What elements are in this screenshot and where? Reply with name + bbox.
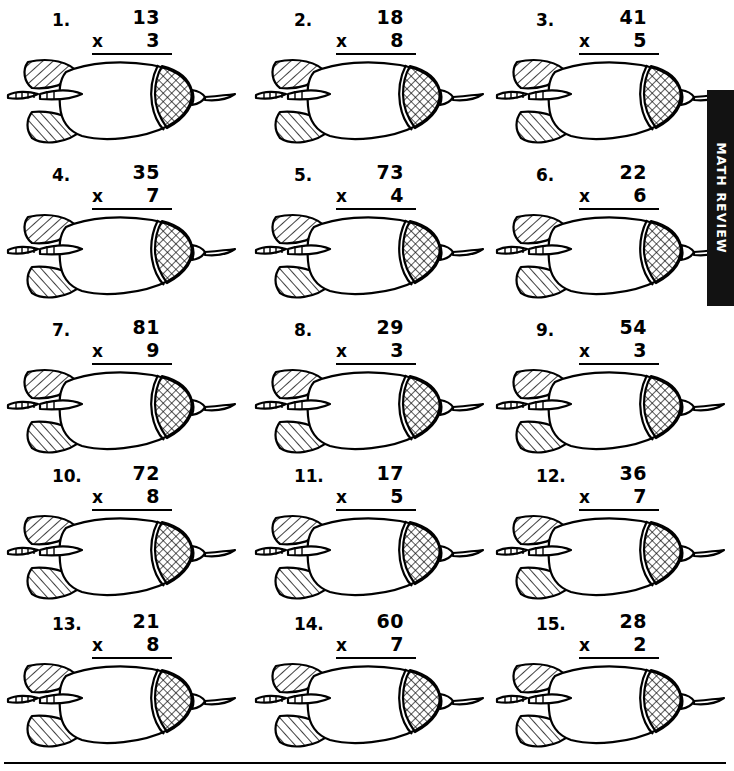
multiplicand: 28 — [579, 610, 659, 632]
problem-number: 1. — [52, 12, 70, 29]
dart-illustration — [2, 50, 238, 150]
problem-number: 4. — [52, 167, 70, 184]
multiplication-operator: x — [336, 185, 347, 207]
problem-number: 15. — [536, 616, 566, 633]
problem-number: 2. — [294, 12, 312, 29]
problem-number: 7. — [52, 322, 70, 339]
multiplicand: 41 — [579, 6, 659, 28]
multiplication-operator: x — [336, 486, 347, 508]
worksheet-page: 1.13x3 — [0, 0, 734, 771]
multiplier: 2 — [633, 633, 647, 655]
problem-cell: 3.41x5 — [489, 0, 734, 155]
dart-illustration — [2, 654, 238, 754]
multiplicand: 81 — [92, 316, 172, 338]
problem-cell: 12.36x7 — [489, 456, 734, 604]
problem-operands: 73x4 — [336, 161, 416, 210]
problem-number: 10. — [52, 468, 82, 485]
problem-cell: 2.18x8 — [244, 0, 489, 155]
side-tab-label: MATH REVIEW — [713, 142, 728, 253]
problem-cell: 7.81x9 — [0, 310, 244, 456]
multiplicand: 18 — [336, 6, 416, 28]
problem-operands: 28x2 — [579, 610, 659, 659]
multiplicand: 54 — [579, 316, 659, 338]
problem-number: 13. — [52, 616, 82, 633]
problem-cell: 4.35x7 — [0, 155, 244, 310]
multiplication-operator: x — [336, 634, 347, 656]
multiplication-operator: x — [579, 486, 590, 508]
problem-number: 6. — [536, 167, 554, 184]
problem-cell: 10.72x8 — [0, 456, 244, 604]
problem-operands: 35x7 — [92, 161, 172, 210]
problem-operands: 54x3 — [579, 316, 659, 365]
multiplication-operator: x — [92, 634, 103, 656]
problem-cell: 13.21x8 — [0, 604, 244, 756]
problem-operands: 29x3 — [336, 316, 416, 365]
problem-number: 5. — [294, 167, 312, 184]
multiplier: 7 — [146, 184, 160, 206]
dart-illustration — [250, 50, 486, 150]
bottom-divider — [4, 762, 726, 764]
multiplier: 7 — [390, 633, 404, 655]
problem-number: 11. — [294, 468, 324, 485]
problem-operands: 36x7 — [579, 462, 659, 511]
dart-illustration — [2, 506, 238, 606]
side-tab-math-review: MATH REVIEW — [707, 90, 734, 306]
problem-operands: 18x8 — [336, 6, 416, 55]
multiplicand: 29 — [336, 316, 416, 338]
problem-cell: 5.73x4 — [244, 155, 489, 310]
dart-illustration — [491, 360, 727, 460]
multiplication-operator: x — [336, 30, 347, 52]
multiplication-operator: x — [92, 340, 103, 362]
multiplication-operator: x — [92, 30, 103, 52]
multiplication-operator: x — [579, 340, 590, 362]
problem-cell: 15.28x2 — [489, 604, 734, 756]
problem-cell: 9.54x3 — [489, 310, 734, 456]
problem-cell: 6.22x6 — [489, 155, 734, 310]
dart-illustration — [250, 654, 486, 754]
multiplication-operator: x — [579, 30, 590, 52]
problem-cell: 8.29x3 — [244, 310, 489, 456]
multiplication-operator: x — [92, 486, 103, 508]
problem-operands: 17x5 — [336, 462, 416, 511]
problem-number: 14. — [294, 616, 324, 633]
multiplicand: 60 — [336, 610, 416, 632]
problem-operands: 81x9 — [92, 316, 172, 365]
multiplication-operator: x — [579, 634, 590, 656]
problem-cell: 11.17x5 — [244, 456, 489, 604]
multiplicand: 21 — [92, 610, 172, 632]
dart-illustration — [491, 506, 727, 606]
multiplier: 8 — [146, 485, 160, 507]
multiplication-operator: x — [579, 185, 590, 207]
multiplier: 5 — [390, 485, 404, 507]
multiplicand: 36 — [579, 462, 659, 484]
multiplier: 4 — [390, 184, 404, 206]
problem-operands: 41x5 — [579, 6, 659, 55]
dart-illustration — [2, 360, 238, 460]
multiplicand: 17 — [336, 462, 416, 484]
multiplicand: 73 — [336, 161, 416, 183]
multiplier: 3 — [633, 339, 647, 361]
dart-illustration — [491, 50, 727, 150]
multiplier: 8 — [390, 29, 404, 51]
multiplier: 9 — [146, 339, 160, 361]
dart-illustration — [2, 205, 238, 305]
dart-illustration — [250, 506, 486, 606]
problem-operands: 22x6 — [579, 161, 659, 210]
multiplier: 8 — [146, 633, 160, 655]
problem-operands: 72x8 — [92, 462, 172, 511]
dart-illustration — [491, 205, 727, 305]
problem-operands: 21x8 — [92, 610, 172, 659]
problem-number: 9. — [536, 322, 554, 339]
multiplier: 6 — [633, 184, 647, 206]
multiplier: 3 — [390, 339, 404, 361]
multiplicand: 35 — [92, 161, 172, 183]
problem-cell: 1.13x3 — [0, 0, 244, 155]
dart-illustration — [250, 360, 486, 460]
dart-illustration — [491, 654, 727, 754]
multiplicand: 72 — [92, 462, 172, 484]
problem-operands: 13x3 — [92, 6, 172, 55]
multiplication-operator: x — [336, 340, 347, 362]
multiplier: 3 — [146, 29, 160, 51]
problem-grid: 1.13x3 — [0, 0, 734, 771]
problem-number: 3. — [536, 12, 554, 29]
